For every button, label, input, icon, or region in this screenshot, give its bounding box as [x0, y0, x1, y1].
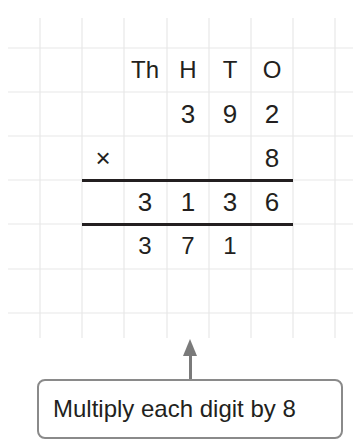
multiplicand-tens: 9 [209, 92, 251, 136]
header-tens: T [209, 48, 251, 92]
callout-box: Multiply each digit by 8 [37, 379, 343, 439]
product-thousands: 3 [124, 180, 166, 224]
multiplier-ones: 8 [251, 136, 293, 180]
carry-tens: 1 [209, 224, 251, 268]
carry-thousands: 3 [124, 224, 166, 268]
arrow-shaft [189, 352, 192, 379]
product-ones: 6 [251, 180, 293, 224]
multiply-sign: × [82, 136, 124, 180]
multiplicand-hundreds: 3 [167, 92, 209, 136]
header-ones: O [251, 48, 293, 92]
carry-hundreds: 7 [167, 224, 209, 268]
callout-text: Multiply each digit by 8 [53, 395, 296, 423]
multiplicand-thousands [124, 92, 166, 136]
multiplicand-ones: 2 [251, 92, 293, 136]
product-hundreds: 1 [167, 180, 209, 224]
header-hundreds: H [167, 48, 209, 92]
product-tens: 3 [209, 180, 251, 224]
header-thousands: Th [124, 48, 166, 92]
